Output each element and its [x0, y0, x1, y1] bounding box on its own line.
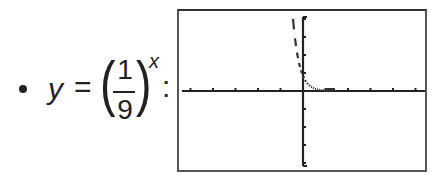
formula-numerator: 1 [116, 54, 134, 86]
bullet-point [19, 85, 27, 93]
exponential-curve [293, 19, 335, 91]
formula-colon: : [162, 70, 170, 104]
fraction-bar [113, 91, 135, 93]
formula-denominator: 9 [116, 94, 134, 126]
formula-equals: = [74, 70, 92, 104]
formula-lhs: y [48, 72, 63, 106]
formula-open-paren: ( [100, 52, 115, 114]
graph-screen [177, 9, 427, 172]
axes [182, 17, 425, 166]
graph-plot [179, 11, 429, 174]
formula: y = ( 1 9 ) x : [48, 48, 173, 128]
formula-exponent: x [149, 50, 159, 73]
